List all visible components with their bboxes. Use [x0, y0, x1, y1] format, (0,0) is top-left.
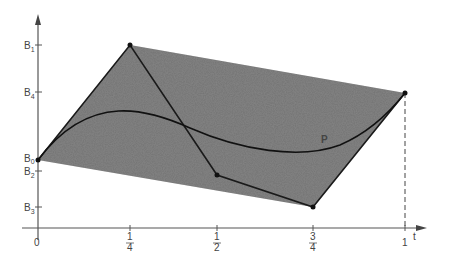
svg-text:4: 4: [310, 242, 316, 253]
svg-text:2: 2: [214, 242, 220, 253]
svg-text:B4: B4: [24, 87, 35, 100]
x-axis-arrow-icon: [416, 225, 427, 231]
svg-text:3: 3: [310, 231, 316, 242]
svg-text:0: 0: [34, 237, 40, 248]
svg-text:1: 1: [127, 231, 133, 242]
svg-text:B1: B1: [24, 40, 35, 53]
bezier-diagram: P B1 B4 B0 B2 B3 0 1 4 1 2 3 4 1 t: [0, 0, 449, 267]
svg-text:B2: B2: [24, 166, 35, 179]
svg-text:B3: B3: [24, 202, 35, 215]
x-axis-label: t: [413, 231, 416, 242]
x-tick-labels: 0 1 4 1 2 3 4 1 t: [34, 231, 416, 253]
y-axis-arrow-icon: [35, 14, 41, 25]
svg-text:4: 4: [127, 242, 133, 253]
y-tick-labels: B1 B4 B0 B2 B3: [24, 40, 35, 215]
svg-text:B0: B0: [24, 153, 35, 165]
svg-text:1: 1: [214, 231, 220, 242]
curve-label: P: [321, 134, 328, 145]
svg-text:1: 1: [402, 237, 408, 248]
convex-hull: [38, 45, 405, 207]
